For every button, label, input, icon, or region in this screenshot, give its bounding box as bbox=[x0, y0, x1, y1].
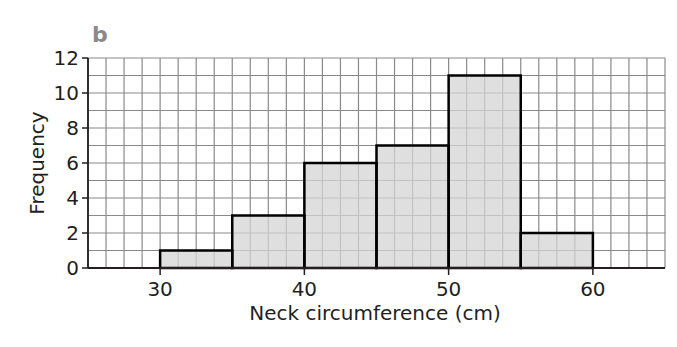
histogram-bar bbox=[304, 163, 376, 268]
x-axis-label: Neck circumference (cm) bbox=[249, 301, 501, 325]
y-tick-label: 2 bbox=[66, 221, 79, 245]
histogram-bar bbox=[521, 233, 593, 268]
histogram-bar bbox=[377, 146, 449, 269]
x-tick-label: 50 bbox=[436, 277, 461, 301]
y-tick-label: 6 bbox=[66, 151, 79, 175]
x-tick-label: 40 bbox=[292, 277, 317, 301]
histogram-bar bbox=[232, 216, 304, 269]
histogram-chart: 02468101230405060 b Neck circumference (… bbox=[0, 0, 677, 347]
histogram-bar bbox=[449, 76, 521, 269]
y-tick-label: 8 bbox=[66, 116, 79, 140]
y-tick-label: 0 bbox=[66, 256, 79, 280]
x-tick-label: 30 bbox=[147, 277, 172, 301]
panel-label: b bbox=[92, 22, 108, 47]
y-tick-label: 10 bbox=[54, 81, 79, 105]
y-tick-label: 4 bbox=[66, 186, 79, 210]
y-tick-label: 12 bbox=[54, 46, 79, 70]
histogram-bar bbox=[160, 251, 232, 269]
x-tick-label: 60 bbox=[580, 277, 605, 301]
y-axis-label: Frequency bbox=[25, 111, 49, 214]
